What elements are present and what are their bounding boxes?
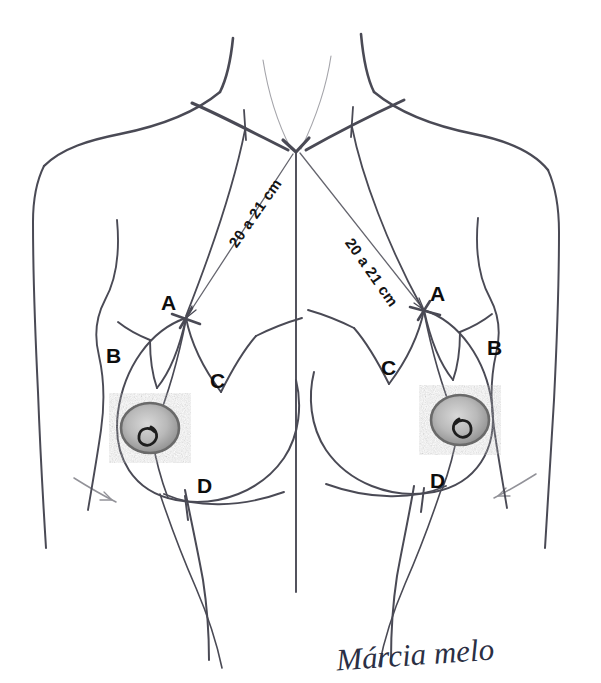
point-label-right-a: A — [430, 283, 445, 304]
point-label-left-c: C — [210, 370, 225, 391]
clavicle-lines — [192, 100, 404, 150]
point-label-right-b: B — [487, 337, 502, 358]
point-label-left-b: B — [106, 345, 121, 366]
point-label-right-d: D — [430, 470, 445, 491]
midline — [283, 138, 309, 592]
neck-outline — [220, 34, 374, 92]
diagram-canvas: 20 a 21 cm 20 a 21 cm A B C D A B C D Má… — [0, 0, 601, 683]
point-a-markers — [172, 301, 440, 328]
point-label-left-d: D — [197, 475, 212, 496]
point-label-left-a: A — [161, 292, 176, 313]
neck-guide-lines — [263, 56, 331, 149]
right-breast — [308, 310, 493, 512]
point-label-right-c: C — [381, 357, 396, 378]
anatomical-sketch — [0, 0, 601, 683]
